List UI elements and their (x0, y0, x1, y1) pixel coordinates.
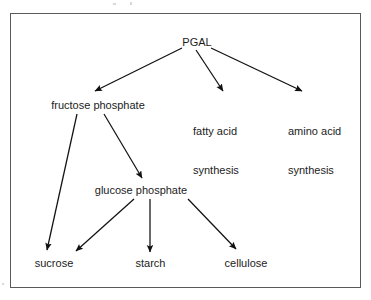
arrow-fructose-phosphate-to-glucose-phosphate (104, 114, 142, 178)
node-pgal: PGAL (181, 36, 213, 49)
node-fatty-acid-synthesis-line1: fatty acid (193, 125, 253, 138)
arrow-pgal-to-amino-acid-synthesis (211, 48, 302, 91)
node-amino-acid-synthesis: amino acid synthesis (288, 99, 350, 203)
arrow-glucose-phosphate-to-cellulose (188, 199, 236, 249)
node-fatty-acid-synthesis-line2: synthesis (193, 164, 253, 177)
node-cellulose: cellulose (221, 257, 271, 270)
arrow-pgal-to-fructose-phosphate (95, 48, 182, 91)
arrow-fructose-phosphate-to-sucrose (47, 114, 77, 250)
node-fructose-phosphate: fructose phosphate (47, 99, 149, 112)
node-glucose-phosphate: glucose phosphate (92, 184, 190, 197)
node-starch: starch (132, 257, 169, 270)
arrow-pgal-to-fatty-acid-synthesis (196, 50, 223, 91)
node-amino-acid-synthesis-line2: synthesis (288, 164, 350, 177)
arrow-glucose-phosphate-to-sucrose (76, 199, 134, 251)
node-amino-acid-synthesis-line1: amino acid (288, 125, 350, 138)
diagram-root: PGAL fructose phosphate fatty acid synth… (0, 0, 371, 300)
node-sucrose: sucrose (32, 257, 76, 270)
node-fatty-acid-synthesis: fatty acid synthesis (193, 99, 253, 203)
